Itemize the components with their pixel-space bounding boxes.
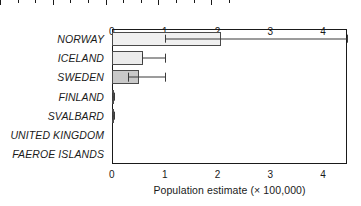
- axis-tick-major: [0, 0, 1, 5]
- error-bar-cap: [165, 73, 166, 82]
- error-bar-cap: [347, 34, 348, 43]
- axis-tick-label: 0: [102, 169, 122, 180]
- axis-tick-minor: [194, 0, 195, 3]
- bar-series: [112, 29, 347, 164]
- axis-tick-minor: [176, 0, 177, 3]
- axis-tick-label: 1: [155, 169, 175, 180]
- axis-tick-minor: [141, 0, 142, 3]
- axis-tick-minor: [70, 0, 71, 3]
- error-bar-cap: [128, 73, 129, 82]
- error-bar-cap: [142, 54, 143, 63]
- error-bar-cap: [114, 111, 115, 120]
- axis-tick-label: 3: [260, 169, 280, 180]
- category-label-united-kingdom: UNITED KINGDOM: [10, 129, 104, 141]
- axis-tick-minor: [229, 0, 230, 3]
- category-label-svalbard: SVALBARD: [48, 110, 104, 122]
- axis-tick-major: [211, 0, 212, 5]
- axis-tick-minor: [35, 0, 36, 3]
- category-label-finland: FINLAND: [58, 91, 104, 103]
- error-bar-cap: [112, 92, 113, 101]
- axis-tick-minor: [88, 0, 89, 3]
- bar-iceland: [112, 51, 143, 65]
- chart-figure: 01234 01234 NORWAYICELANDSWEDENFINLANDSV…: [0, 0, 361, 206]
- error-bar-sweden: [128, 77, 165, 78]
- category-label-norway: NORWAY: [57, 33, 104, 45]
- error-bar-cap: [114, 92, 115, 101]
- category-label-sweden: SWEDEN: [57, 71, 104, 83]
- axis-tick-major: [53, 0, 54, 5]
- error-bar-norway: [165, 38, 347, 39]
- axis-tick-label: 2: [208, 169, 228, 180]
- category-label-iceland: ICELAND: [58, 52, 104, 64]
- axis-tick-minor: [18, 0, 19, 3]
- x-axis-title: Population estimate (× 100,000): [112, 184, 347, 196]
- axis-tick-major: [158, 0, 159, 5]
- category-axis-labels: NORWAYICELANDSWEDENFINLANDSVALBARDUNITED…: [0, 29, 108, 164]
- axis-tick-minor: [123, 0, 124, 3]
- axis-tick-major: [106, 0, 107, 5]
- axis-tick-label: 4: [313, 169, 333, 180]
- error-bar-cap: [165, 54, 166, 63]
- error-bar-iceland: [142, 57, 165, 58]
- error-bar-cap: [165, 34, 166, 43]
- category-label-faeroe-islands: FAEROE ISLANDS: [12, 148, 104, 160]
